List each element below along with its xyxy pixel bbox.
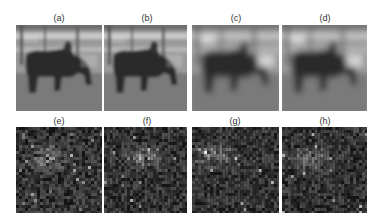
panel-g-heatmap bbox=[192, 127, 279, 213]
panel-c-image bbox=[192, 25, 279, 111]
panel-e-heatmap bbox=[16, 127, 102, 213]
label-e: (e) bbox=[16, 116, 102, 126]
panel-f-heatmap bbox=[104, 127, 187, 213]
panel-h-heatmap bbox=[282, 127, 367, 213]
panel-b-image bbox=[104, 25, 187, 111]
label-c: (c) bbox=[193, 13, 279, 23]
label-d: (d) bbox=[282, 13, 368, 23]
panel-a-image bbox=[16, 25, 102, 111]
panel-d-image bbox=[282, 25, 367, 111]
label-b: (b) bbox=[104, 13, 190, 23]
label-f: (f) bbox=[104, 116, 190, 126]
label-h: (h) bbox=[282, 116, 368, 126]
label-g: (g) bbox=[192, 116, 278, 126]
label-a: (a) bbox=[16, 13, 102, 23]
